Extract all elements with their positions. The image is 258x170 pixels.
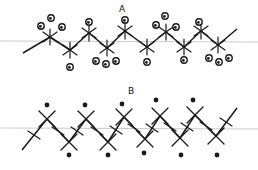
atom-core xyxy=(227,57,230,60)
substituent-group xyxy=(140,39,154,65)
atom-dot-icon xyxy=(142,151,147,156)
atom-core xyxy=(207,57,210,60)
bond-tick xyxy=(128,124,140,132)
panel-b-label: B xyxy=(128,86,134,96)
atom-dot-icon xyxy=(83,103,88,108)
bond-tick xyxy=(220,118,232,126)
bond-tick xyxy=(181,123,193,131)
atom-dot-icon xyxy=(154,98,159,103)
bond-tick xyxy=(164,123,176,131)
atom-dot-icon xyxy=(67,153,72,158)
bond-tick xyxy=(110,126,122,134)
substituent-group xyxy=(93,40,119,67)
diagram-canvas xyxy=(0,0,258,170)
atom-core xyxy=(49,17,52,20)
atom-core xyxy=(154,24,157,27)
atom-dot-icon xyxy=(191,98,196,103)
substituent-group xyxy=(172,130,188,157)
atom-core xyxy=(163,15,166,18)
atom-core xyxy=(182,59,185,62)
panel-a-isotactic-chain xyxy=(0,13,258,70)
substituent-group xyxy=(187,98,203,123)
panel-a-label: A xyxy=(119,4,125,14)
substituent-group xyxy=(39,103,55,127)
atom-core xyxy=(87,21,90,24)
substituent-group xyxy=(78,103,94,127)
atom-dot-icon xyxy=(179,153,184,158)
axis-line xyxy=(0,41,258,42)
atom-core xyxy=(145,61,148,64)
substituent-group xyxy=(100,134,116,157)
atom-core xyxy=(217,61,220,64)
bond-tick xyxy=(146,124,158,132)
atom-core xyxy=(94,60,97,63)
panel-b-syndiotactic-chain xyxy=(0,98,258,158)
substituent-group xyxy=(137,131,153,155)
bond-tick xyxy=(28,131,40,139)
atom-core xyxy=(197,21,200,24)
substituent-group xyxy=(206,37,232,65)
atom-core xyxy=(174,26,177,29)
substituent-group xyxy=(61,134,77,157)
atom-dot-icon xyxy=(215,153,220,158)
atom-core xyxy=(39,25,42,28)
atom-dot-icon xyxy=(106,153,111,158)
atom-core xyxy=(114,60,117,63)
substituent-group xyxy=(153,13,179,40)
substituent-group xyxy=(208,128,224,157)
substituent-group xyxy=(63,42,77,70)
atom-dot-icon xyxy=(45,103,50,108)
atom-core xyxy=(68,66,71,69)
substituent-group xyxy=(116,102,132,125)
atom-core xyxy=(123,19,126,22)
atom-core xyxy=(104,63,107,66)
substituent-group xyxy=(38,15,65,45)
atom-core xyxy=(60,26,63,29)
atom-dot-icon xyxy=(120,102,125,107)
substituent-group xyxy=(152,98,168,124)
